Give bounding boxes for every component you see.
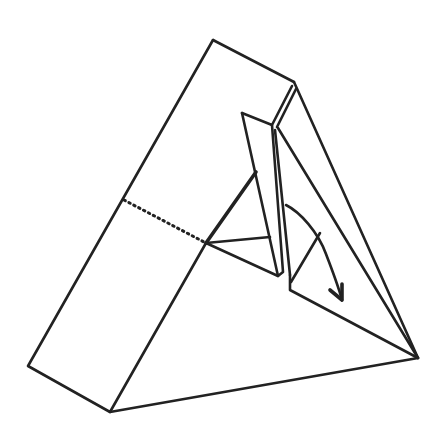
flap-diagonal-to-tip — [278, 128, 418, 358]
front-face-inner-line — [206, 237, 270, 243]
origami-diagram: Triangular prism-shaped paper model with… — [0, 0, 442, 439]
flap-top-edge — [242, 86, 292, 125]
front-face-lower-line — [206, 243, 278, 276]
bottom-edge — [110, 358, 418, 412]
front-face-left-edge — [206, 172, 256, 243]
crease-cross-line — [291, 233, 320, 282]
top-edge — [213, 40, 294, 82]
outer-body — [28, 40, 418, 412]
right-back-edge — [294, 82, 418, 358]
inner-flap — [242, 86, 418, 358]
hidden-edge-dotted-line — [124, 200, 204, 242]
left-face-outline — [28, 40, 213, 412]
diagram-canvas — [0, 0, 442, 439]
fold-arrowhead — [330, 284, 342, 300]
